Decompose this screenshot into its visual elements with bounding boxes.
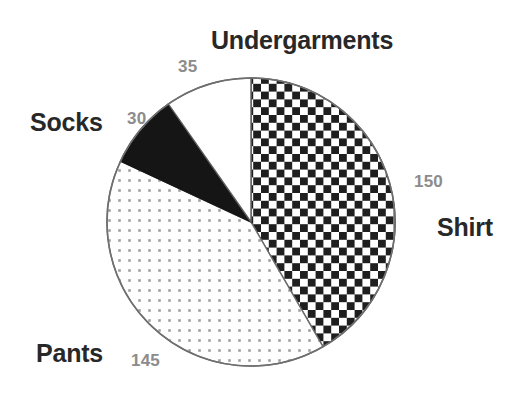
slice-label-socks: Socks (30, 110, 103, 135)
pie-chart-page: Undergarments 35 Socks 30 Pants 145 Shir… (0, 0, 514, 409)
slice-value-shirt: 150 (414, 173, 443, 190)
slice-label-shirt: Shirt (437, 215, 493, 240)
slice-value-socks: 30 (127, 110, 146, 127)
slice-label-undergarments: Undergarments (211, 28, 393, 53)
slice-label-pants: Pants (36, 341, 103, 366)
slice-value-pants: 145 (131, 352, 160, 369)
pie-chart-svg (105, 76, 397, 368)
slice-value-undergarments: 35 (178, 58, 197, 75)
pie-chart (105, 76, 397, 368)
